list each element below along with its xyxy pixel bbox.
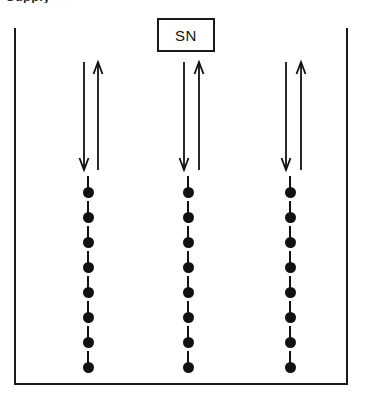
unit-dot <box>285 287 296 298</box>
chain-unit <box>68 201 108 226</box>
unit-dot <box>285 212 296 223</box>
column-middle-unit-chain <box>168 176 208 376</box>
chain-unit <box>168 226 208 251</box>
chain-unit <box>68 251 108 276</box>
unit-dot <box>83 262 94 273</box>
chain-unit <box>270 326 310 351</box>
unit-dot <box>285 337 296 348</box>
chain-unit <box>270 201 310 226</box>
sn-label-box: SN <box>157 18 215 52</box>
unit-dot <box>83 237 94 248</box>
sn-label-text: SN <box>175 28 197 43</box>
chain-unit <box>270 301 310 326</box>
column-left-unit-chain <box>68 176 108 376</box>
chain-unit <box>270 351 310 376</box>
chain-unit <box>168 326 208 351</box>
unit-dot <box>183 212 194 223</box>
unit-dot <box>285 187 296 198</box>
arrow-up <box>88 60 108 172</box>
chain-unit <box>168 201 208 226</box>
chain-unit <box>68 301 108 326</box>
unit-dot <box>83 187 94 198</box>
unit-dot <box>83 287 94 298</box>
chain-unit <box>270 226 310 251</box>
unit-dot <box>183 312 194 323</box>
column-middle <box>168 0 208 408</box>
unit-dot <box>183 287 194 298</box>
unit-dot <box>183 362 194 373</box>
chain-unit <box>270 276 310 301</box>
unit-dot <box>183 237 194 248</box>
column-left <box>68 0 108 408</box>
chain-unit <box>168 176 208 201</box>
chain-unit <box>68 326 108 351</box>
unit-dot <box>83 337 94 348</box>
column-right-unit-chain <box>270 176 310 376</box>
column-right <box>270 0 310 408</box>
chain-unit <box>68 351 108 376</box>
unit-dot <box>285 262 296 273</box>
chain-unit <box>168 251 208 276</box>
unit-dot <box>83 362 94 373</box>
unit-dot <box>285 362 296 373</box>
chain-unit <box>68 226 108 251</box>
chain-unit <box>168 351 208 376</box>
unit-dot <box>285 237 296 248</box>
chain-unit <box>168 276 208 301</box>
unit-dot <box>183 187 194 198</box>
arrow-up <box>189 60 209 172</box>
chain-unit <box>270 251 310 276</box>
chain-unit <box>68 276 108 301</box>
unit-dot <box>83 312 94 323</box>
chain-unit <box>168 301 208 326</box>
diagram-canvas: Supply SN <box>0 0 367 408</box>
arrow-up <box>291 60 311 172</box>
unit-dot <box>83 212 94 223</box>
unit-dot <box>285 312 296 323</box>
unit-dot <box>183 262 194 273</box>
unit-dot <box>183 337 194 348</box>
chain-unit <box>270 176 310 201</box>
chain-unit <box>68 176 108 201</box>
